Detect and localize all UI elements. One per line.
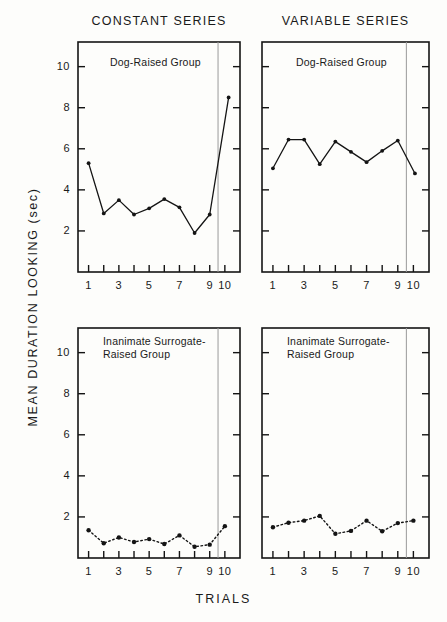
data-point: [223, 524, 227, 528]
plot-canvas: [0, 0, 447, 622]
data-point: [117, 535, 121, 539]
data-point: [192, 545, 196, 549]
data-point: [286, 520, 290, 524]
x-tick-label: 10: [401, 279, 425, 291]
data-point: [302, 518, 306, 522]
panel-top-right: [262, 42, 429, 272]
data-point: [380, 149, 384, 153]
x-tick-label: 7: [355, 279, 379, 291]
y-tick-label: 2: [44, 224, 70, 236]
plot-frame: [78, 328, 240, 558]
data-point: [271, 525, 275, 529]
data-point: [365, 160, 369, 164]
data-point: [87, 161, 91, 165]
data-point: [227, 96, 231, 100]
x-tick-label: 5: [323, 279, 347, 291]
data-point: [287, 138, 291, 142]
data-point: [411, 518, 415, 522]
data-point: [178, 205, 182, 209]
data-point: [380, 529, 384, 533]
x-tick-label: 10: [213, 565, 237, 577]
data-point: [147, 537, 151, 541]
data-point: [333, 532, 337, 536]
data-point: [86, 528, 90, 532]
x-tick-label: 7: [355, 565, 379, 577]
y-tick-label: 4: [44, 469, 70, 481]
figure-root: CONSTANT SERIES VARIABLE SERIES MEAN DUR…: [0, 0, 447, 622]
panel-bottom-right: [262, 328, 429, 558]
data-point: [177, 533, 181, 537]
x-tick-label: 5: [137, 279, 161, 291]
plot-frame: [262, 42, 429, 272]
y-tick-label: 10: [44, 60, 70, 72]
data-line: [89, 526, 225, 547]
data-point: [208, 542, 212, 546]
x-tick-label: 3: [107, 279, 131, 291]
data-point: [318, 162, 322, 166]
data-point: [132, 213, 136, 217]
data-line: [273, 516, 413, 534]
data-point: [162, 542, 166, 546]
data-point: [208, 213, 212, 217]
data-point: [102, 212, 106, 216]
y-tick-label: 6: [44, 142, 70, 154]
x-tick-label: 1: [77, 565, 101, 577]
data-line: [273, 140, 415, 174]
y-tick-label: 8: [44, 101, 70, 113]
panel-bottom-left: [78, 328, 240, 558]
y-tick-label: 4: [44, 183, 70, 195]
data-line: [89, 97, 229, 233]
x-tick-label: 10: [213, 279, 237, 291]
x-tick-label: 3: [292, 565, 316, 577]
data-point: [117, 198, 121, 202]
y-tick-label: 10: [44, 346, 70, 358]
y-tick-label: 2: [44, 510, 70, 522]
x-tick-label: 3: [292, 279, 316, 291]
data-point: [193, 231, 197, 235]
y-tick-label: 8: [44, 387, 70, 399]
panel-top-left: [78, 42, 240, 272]
x-tick-label: 7: [167, 565, 191, 577]
plot-frame: [78, 42, 240, 272]
data-point: [364, 518, 368, 522]
x-tick-label: 1: [77, 279, 101, 291]
x-tick-label: 1: [261, 279, 285, 291]
data-point: [396, 521, 400, 525]
y-tick-label: 6: [44, 428, 70, 440]
data-point: [102, 541, 106, 545]
data-point: [271, 166, 275, 170]
data-point: [162, 197, 166, 201]
data-point: [396, 139, 400, 143]
x-tick-label: 10: [401, 565, 425, 577]
data-point: [132, 540, 136, 544]
x-tick-label: 5: [323, 565, 347, 577]
data-point: [349, 529, 353, 533]
data-point: [302, 138, 306, 142]
data-point: [318, 514, 322, 518]
data-point: [147, 206, 151, 210]
data-point: [349, 150, 353, 154]
x-tick-label: 3: [107, 565, 131, 577]
data-point: [413, 172, 417, 176]
data-point: [333, 140, 337, 144]
x-tick-label: 5: [137, 565, 161, 577]
x-tick-label: 7: [167, 279, 191, 291]
x-tick-label: 1: [261, 565, 285, 577]
